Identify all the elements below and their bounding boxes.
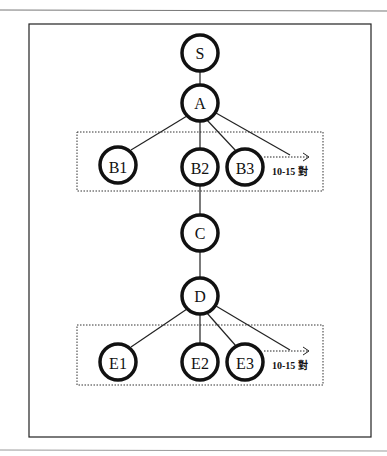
edge-d-e3 — [207, 313, 236, 346]
edge-a-b3 — [207, 120, 236, 151]
node-a: A — [182, 85, 218, 121]
svg-text:E3: E3 — [236, 355, 254, 372]
node-c: C — [182, 215, 218, 251]
node-e2: E2 — [182, 344, 218, 380]
group-note-b: 10-15 對 — [272, 165, 308, 177]
edge-a-more — [216, 113, 290, 155]
node-e3: E3 — [227, 344, 263, 380]
node-e1: E1 — [100, 344, 136, 380]
node-s: S — [182, 35, 218, 71]
node-b1: B1 — [100, 147, 136, 183]
svg-text:E2: E2 — [191, 355, 209, 372]
diagram-canvas: 10-15 對 10-15 對 S A B1 B2 B3 C D E1 E2 E… — [0, 0, 387, 456]
group-note-e: 10-15 對 — [272, 359, 308, 371]
edge-d-e1 — [131, 309, 187, 347]
edge-d-more — [216, 306, 290, 350]
svg-text:C: C — [195, 225, 206, 242]
more-arrow-b — [264, 153, 309, 161]
edge-a-b1 — [131, 116, 187, 150]
svg-text:B1: B1 — [109, 159, 128, 176]
node-b3: B3 — [227, 149, 263, 185]
svg-text:D: D — [194, 288, 206, 305]
svg-text:E1: E1 — [109, 355, 127, 372]
svg-text:B2: B2 — [191, 160, 210, 177]
top-rule — [0, 10, 387, 11]
svg-text:A: A — [194, 95, 206, 112]
node-b2: B2 — [182, 149, 218, 185]
svg-text:B3: B3 — [236, 160, 255, 177]
bottom-rule — [0, 450, 387, 451]
node-d: D — [182, 278, 218, 314]
svg-text:S: S — [196, 45, 205, 62]
